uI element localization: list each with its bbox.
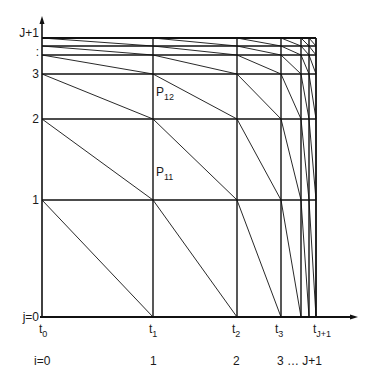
diagonal-line [237, 74, 281, 119]
diagonal-line [42, 74, 153, 119]
i-index-label: 1 [150, 355, 157, 367]
t-label: t1 [149, 323, 157, 335]
diagonal-line [309, 74, 316, 119]
diagonal-line [153, 55, 237, 74]
diagonal-line [237, 46, 281, 55]
i-index-label: 2 [233, 355, 240, 367]
point-label: P12 [156, 86, 174, 98]
diagonal-line [42, 200, 153, 317]
point-label: P11 [156, 166, 173, 178]
diagonal-line [281, 55, 301, 74]
t-label: t3 [275, 323, 283, 335]
diagonal-line [237, 200, 281, 317]
i-index-label: 3 … J+1 [277, 355, 322, 367]
diagonal-line [281, 38, 301, 46]
diagonal-line [42, 55, 153, 74]
diagonal-line [309, 200, 316, 317]
y-axis-arrow-icon [40, 16, 45, 24]
i-index-label: i=0 [34, 355, 50, 367]
y-tick-label: : [36, 46, 39, 58]
diagonal-line [237, 38, 281, 46]
diagonal-line [153, 46, 237, 55]
y-tick-label: J+1 [19, 27, 39, 39]
diagonal-line [301, 46, 309, 55]
diagonal-line [301, 200, 309, 317]
diagonal-line [42, 119, 153, 200]
x-axis-arrow-icon [350, 315, 358, 320]
diagonal-line [301, 119, 309, 200]
t-label: tJ+1 [313, 323, 331, 335]
grid-diagram [0, 0, 369, 377]
grid-lines [42, 38, 316, 317]
diagonal-line [301, 38, 309, 46]
y-tick-label: 2 [32, 113, 39, 125]
axes [40, 16, 359, 320]
diagonal-line [153, 200, 237, 317]
diagonal-line [309, 55, 316, 74]
diagonal-line [42, 38, 153, 46]
diagonal-line [309, 38, 316, 46]
diagonal-line [153, 38, 237, 46]
diagonal-line [281, 119, 301, 200]
diagonal-line [281, 46, 301, 55]
diagonal-line [42, 46, 153, 55]
y-tick-label: 3 [32, 68, 39, 80]
y-tick-label: j=0 [23, 311, 39, 323]
diagonal-line [237, 119, 281, 200]
diagonal-line [281, 74, 301, 119]
diagonal-line [301, 74, 309, 119]
y-tick-label: 1 [32, 194, 39, 206]
diagonal-line [301, 55, 309, 74]
diagonal-lines [42, 38, 316, 317]
t-label: t2 [232, 323, 240, 335]
diagonal-line [237, 55, 281, 74]
diagonal-line [153, 119, 237, 200]
diagonal-line [281, 200, 301, 317]
t-label: t0 [39, 323, 47, 335]
diagonal-line [309, 46, 316, 55]
diagonal-line [309, 119, 316, 200]
